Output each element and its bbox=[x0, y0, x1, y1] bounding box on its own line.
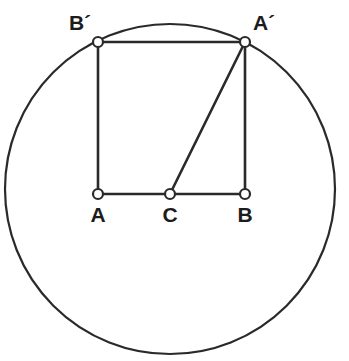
vertex-marker-C bbox=[165, 189, 175, 199]
vertex-label-B: B bbox=[237, 203, 252, 226]
geometry-canvas: B´A´ACB bbox=[0, 0, 349, 361]
vertex-marker-B bbox=[240, 189, 250, 199]
segment-layer bbox=[98, 42, 245, 194]
vertex-marker-Ap bbox=[240, 37, 250, 47]
vertex-marker-A bbox=[93, 189, 103, 199]
segment-diagonal bbox=[170, 42, 245, 194]
geometry-figure: B´A´ACB bbox=[0, 0, 349, 361]
vertex-label-Bp: B´ bbox=[69, 11, 91, 34]
vertex-label-C: C bbox=[162, 203, 177, 226]
vertex-label-Ap: A´ bbox=[253, 11, 275, 34]
vertex-marker-Bp bbox=[93, 37, 103, 47]
vertex-marker-layer bbox=[93, 37, 250, 199]
vertex-label-A: A bbox=[90, 203, 105, 226]
